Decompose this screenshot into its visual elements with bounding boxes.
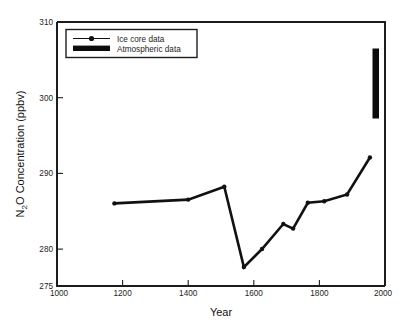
data-point-1765 [306,201,310,205]
legend-atmospheric-bar-icon [73,46,110,51]
y-tick-label-280: 280 [39,245,53,254]
data-point-1720 [291,226,295,230]
y-axis-ticks: 310 300 290 280 275 [39,18,63,291]
legend-label-ice-core: Ice core data [117,35,165,44]
y-axis-title-post: O Concentration (ppbv) [14,91,26,205]
axis-left-bottom [57,22,385,286]
data-point-1175 [112,201,116,205]
x-tick-label-1600: 1600 [245,289,264,298]
axis-top-right [57,22,385,286]
ice-core-polyline [114,158,370,268]
chart-figure: 310 300 290 280 275 1000 1200 1400 1600 … [0,0,416,328]
series-ice-core-data [112,155,372,269]
legend-label-atmospheric: Atmospheric data [117,45,181,54]
data-point-1570 [242,265,246,269]
data-point-1510 [222,185,226,189]
x-tick-label-1200: 1200 [113,289,132,298]
x-axis-ticks: 1000 1200 1400 1600 1800 2000 [50,280,393,298]
plot-axes [57,22,385,286]
x-tick-label-2000: 2000 [374,289,393,298]
y-tick-label-310: 310 [39,18,53,27]
x-axis-title: Year [210,306,233,318]
x-tick-label-1800: 1800 [310,289,329,298]
data-point-1400 [186,197,190,201]
data-point-1690 [281,222,285,226]
atmospheric-data-bar [373,49,380,119]
data-point-1885 [345,192,349,196]
legend-ice-core-dot-icon [89,36,94,41]
y-tick-label-300: 300 [39,94,53,103]
y-tick-label-290: 290 [39,169,53,178]
n2o-concentration-line-chart: 310 300 290 280 275 1000 1200 1400 1600 … [0,0,416,328]
data-point-1815 [322,199,326,203]
data-point-1625 [260,247,264,251]
y-axis-title: N2O Concentration (ppbv) [14,91,29,218]
data-point-1955 [368,155,372,159]
x-tick-label-1000: 1000 [50,289,69,298]
x-tick-label-1400: 1400 [179,289,198,298]
y-axis-title-pre: N [14,209,26,217]
chart-legend: Ice core data Atmospheric data [66,30,197,58]
